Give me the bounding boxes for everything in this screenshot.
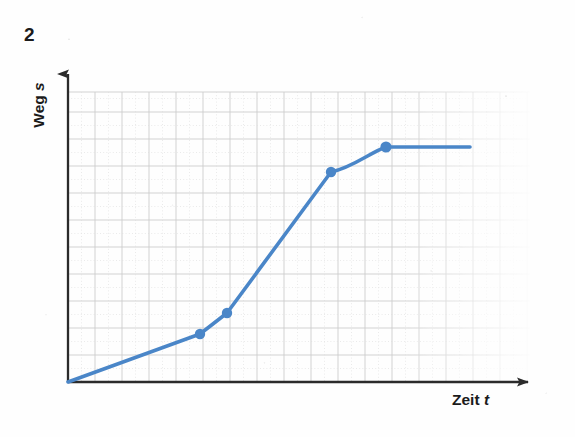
x-axis-label: Zeit t	[452, 391, 489, 409]
chart-subgrid	[68, 92, 530, 382]
y-axis-label-symbol: s	[30, 82, 47, 91]
chart-grid	[68, 92, 530, 382]
data-point-1	[195, 329, 205, 339]
y-axis-label: Weg s	[30, 65, 48, 145]
data-point-2	[222, 308, 232, 318]
data-point-markers	[195, 141, 392, 339]
x-axis-label-symbol: t	[484, 391, 489, 408]
y-axis-label-text: Weg	[30, 95, 47, 127]
weg-zeit-curve	[68, 147, 470, 382]
figure-container: 2	[0, 0, 575, 437]
weg-zeit-plot	[0, 0, 575, 437]
data-point-3	[326, 167, 336, 177]
data-point-4	[380, 141, 391, 152]
x-axis-label-text: Zeit	[452, 391, 480, 408]
